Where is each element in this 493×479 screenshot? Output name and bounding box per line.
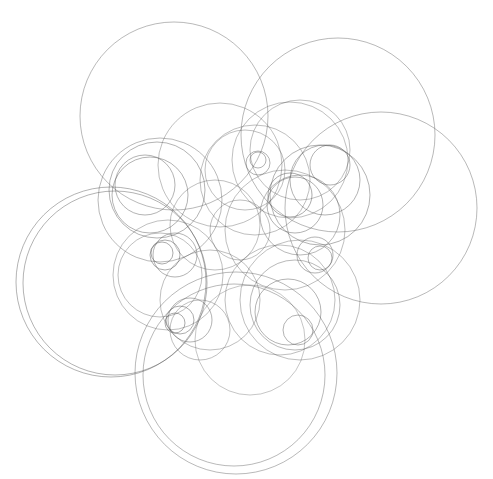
overlapping-circles-drawing — [0, 0, 493, 479]
background — [0, 0, 493, 479]
